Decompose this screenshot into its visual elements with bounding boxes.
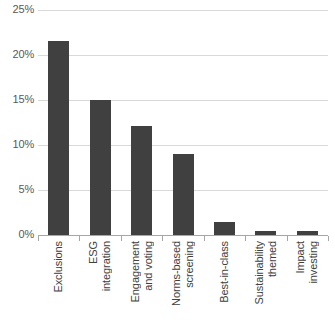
x-axis-tick	[245, 236, 246, 241]
x-axis-category-label: ESGintegration	[79, 241, 120, 330]
x-axis-category-label: Norms-basedscreening	[162, 241, 203, 330]
y-axis-tick-label: 0%	[0, 229, 34, 240]
bar-chart: 0%5%10%15%20%25% ExclusionsESGintegratio…	[0, 0, 335, 330]
y-axis-tick-label: 15%	[0, 94, 34, 105]
bar	[214, 222, 235, 235]
x-axis-tick	[38, 236, 39, 241]
x-axis-category-label: Best-in-class	[204, 241, 245, 330]
x-axis-tick	[328, 236, 329, 241]
y-axis: 0%5%10%15%20%25%	[0, 0, 34, 330]
x-axis-category-label-line: investing	[307, 241, 320, 284]
x-axis-category-labels: ExclusionsESGintegrationEngagementand vo…	[38, 241, 328, 330]
bar	[131, 126, 152, 235]
x-axis-category-label-line: and voting	[142, 241, 155, 291]
x-axis-category-label-line: Exclusions	[52, 241, 65, 293]
x-axis-tick	[162, 236, 163, 241]
y-axis-tick-label: 10%	[0, 139, 34, 150]
y-axis-tick-label: 5%	[0, 184, 34, 195]
x-axis-tick	[79, 236, 80, 241]
x-axis-category-label-line: Norms-based	[170, 241, 183, 306]
x-axis-category-label-line: themed	[266, 241, 279, 277]
bar	[173, 154, 194, 235]
x-axis-category-label-line: ESG	[87, 241, 100, 264]
bar	[255, 231, 276, 236]
x-axis-category-label: Engagementand voting	[121, 241, 162, 330]
x-axis-line	[38, 235, 328, 236]
x-axis-category-label-line: Engagement	[129, 241, 142, 302]
x-axis-category-label: Impactinvesting	[287, 241, 328, 330]
x-axis-category-label: Sustainabilitythemed	[245, 241, 286, 330]
x-axis-tick	[287, 236, 288, 241]
x-axis-tick	[204, 236, 205, 241]
bars-layer	[38, 10, 328, 235]
x-axis-category-label-line: Impact	[294, 241, 307, 273]
bar	[48, 41, 69, 235]
x-axis-category-label-line: Sustainability	[253, 241, 266, 304]
x-axis-tick	[121, 236, 122, 241]
x-axis-category-label-line: screening	[183, 241, 196, 288]
y-axis-tick-label: 20%	[0, 49, 34, 60]
x-axis-category-label: Exclusions	[38, 241, 79, 330]
y-axis-tick-label: 25%	[0, 4, 34, 15]
bar	[90, 100, 111, 235]
x-axis-category-label-line: integration	[100, 241, 113, 291]
bar	[297, 231, 318, 235]
x-axis-category-label-line: Best-in-class	[218, 241, 231, 303]
